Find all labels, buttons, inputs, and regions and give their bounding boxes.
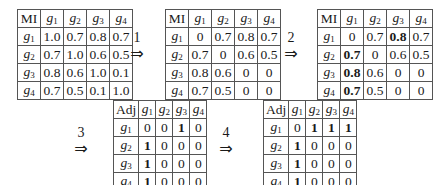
- column-header: g3: [323, 101, 340, 119]
- matrix-cell: 0.5: [212, 82, 235, 100]
- matrix-row: g100.70.80.7: [166, 28, 281, 46]
- gene-index: 1: [30, 34, 35, 44]
- matrix-cell: 0: [190, 137, 207, 155]
- matrix-cell: 0.7: [64, 28, 87, 46]
- matrix-cell: 0: [410, 82, 433, 100]
- matrix-cell: 0: [235, 64, 258, 82]
- matrix-cell: 0: [190, 119, 207, 137]
- matrix-row: g41000: [114, 173, 207, 186]
- row-header: g2: [318, 46, 341, 64]
- row-header: g3: [264, 155, 289, 173]
- matrix-row: g20.71.00.60.5: [18, 46, 133, 64]
- row-header: g4: [166, 82, 189, 100]
- matrix-cell: 0: [364, 46, 387, 64]
- gene-index: 4: [122, 16, 127, 26]
- gene-index: 3: [30, 70, 35, 80]
- gene-index: 4: [30, 88, 35, 98]
- gene-index: 4: [422, 16, 427, 26]
- matrix-cell: 0: [306, 137, 323, 155]
- matrix-cell: 0.6: [64, 64, 87, 82]
- matrix-cell: 0.5: [64, 82, 87, 100]
- column-header: g1: [41, 10, 64, 28]
- column-header: g3: [173, 101, 190, 119]
- gene-index: 1: [53, 16, 58, 26]
- matrix-row: g21000: [114, 137, 207, 155]
- gene-index: 2: [165, 107, 170, 117]
- matrix-cell: 0.5: [258, 46, 281, 64]
- matrix-row: g41000: [264, 173, 357, 186]
- implies-arrow-icon: ⇒: [279, 46, 303, 62]
- matrix-row: g31000: [264, 155, 357, 173]
- column-header: g3: [235, 10, 258, 28]
- column-header: g2: [364, 10, 387, 28]
- gene-index: 3: [182, 107, 187, 117]
- gene-index: 2: [178, 52, 183, 62]
- mi-matrix-zeroed-diagonal: MIg1g2g3g4g100.70.80.7g20.700.60.5g30.80…: [165, 9, 281, 100]
- adjacency-matrix-symmetric: Adjg1g2g3g4g10111g21000g31000g41000: [263, 100, 357, 185]
- gene-index: 4: [199, 107, 204, 117]
- step-2-transition: 2 ⇒: [279, 30, 303, 62]
- row-header: g3: [166, 64, 189, 82]
- column-header: g3: [387, 10, 410, 28]
- matrix-cell: 0.8: [41, 64, 64, 82]
- matrix-cell: 0: [212, 46, 235, 64]
- matrix-cell: 1: [173, 119, 190, 137]
- gene-index: 4: [330, 88, 335, 98]
- matrix-corner-label: MI: [18, 10, 41, 28]
- matrix-cell: 0.1: [110, 64, 133, 82]
- matrix-cell: 0: [173, 155, 190, 173]
- gene-index: 1: [277, 125, 282, 135]
- matrix-cell: 0: [156, 137, 173, 155]
- matrix-cell: 0: [323, 173, 340, 186]
- matrix-cell: 0.8: [235, 28, 258, 46]
- row-header: g2: [114, 137, 139, 155]
- row-header: g3: [318, 64, 341, 82]
- column-header: g1: [139, 101, 156, 119]
- gene-index: 4: [127, 179, 132, 185]
- matrix-cell: 0.7: [41, 46, 64, 64]
- matrix-cell: 0.6: [87, 46, 110, 64]
- gene-index: 2: [127, 143, 132, 153]
- matrix-row: g40.70.50.11.0: [18, 82, 133, 100]
- column-header: g4: [340, 101, 357, 119]
- matrix-cell: 1: [139, 137, 156, 155]
- gene-index: 2: [277, 143, 282, 153]
- column-header: g4: [190, 101, 207, 119]
- matrix-cell: 0: [387, 64, 410, 82]
- matrix-row: g10010: [114, 119, 207, 137]
- matrix-cell: 0: [258, 64, 281, 82]
- matrix-cell: 1: [289, 155, 306, 173]
- matrix-row: g11.00.70.80.7: [18, 28, 133, 46]
- column-header: g4: [110, 10, 133, 28]
- row-header: g1: [318, 28, 341, 46]
- row-header: g2: [18, 46, 41, 64]
- column-header: g1: [189, 10, 212, 28]
- matrix-cell: 1: [323, 119, 340, 137]
- gene-index: 1: [148, 107, 153, 117]
- adjacency-matrix-directed: Adjg1g2g3g4g10010g21000g31000g41000: [113, 100, 207, 185]
- gene-index: 1: [201, 16, 206, 26]
- header-row: Adjg1g2g3g4: [114, 101, 207, 119]
- implies-arrow-icon: ⇒: [125, 46, 149, 62]
- matrix-row: g31000: [114, 155, 207, 173]
- row-header: g4: [114, 173, 139, 186]
- header-row: MIg1g2g3g4: [166, 10, 281, 28]
- matrix-cell: 1.0: [64, 46, 87, 64]
- matrix-cell: 0.8: [387, 28, 410, 46]
- matrix-cell: 0: [410, 64, 433, 82]
- row-header: g1: [114, 119, 139, 137]
- matrix-cell: 0.7: [341, 46, 364, 64]
- gene-index: 2: [315, 107, 320, 117]
- row-header: g1: [166, 28, 189, 46]
- implies-arrow-icon: ⇒: [214, 141, 238, 157]
- matrix-cell: 0.7: [410, 28, 433, 46]
- mutual-information-matrix: MIg1g2g3g4g11.00.70.80.7g20.71.00.60.5g3…: [17, 9, 133, 100]
- matrix-cell: 0: [156, 173, 173, 186]
- column-header: g4: [258, 10, 281, 28]
- matrix-cell: 1.0: [41, 28, 64, 46]
- row-header: g3: [114, 155, 139, 173]
- matrix-cell: 1: [289, 173, 306, 186]
- gene-index: 4: [277, 179, 282, 185]
- matrix-cell: 0: [190, 155, 207, 173]
- matrix-cell: 0.1: [87, 82, 110, 100]
